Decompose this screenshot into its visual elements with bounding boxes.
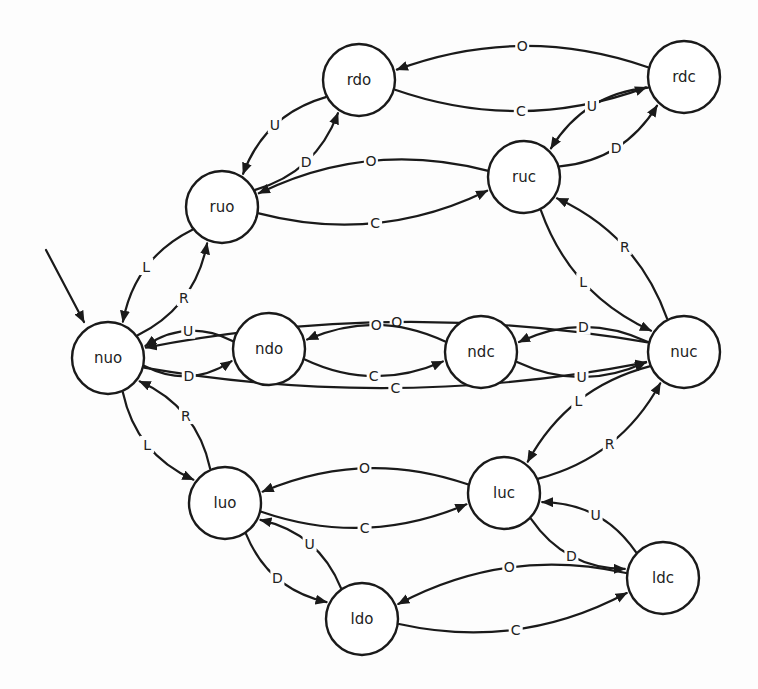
state-node-ldc: ldc xyxy=(627,542,699,614)
edge-label-luc-luo: O xyxy=(359,460,370,476)
edge-label-ldo-ldc: C xyxy=(511,622,521,638)
state-label: ndc xyxy=(467,343,494,361)
edge-label-luo-nuo: R xyxy=(181,408,191,424)
state-node-luo: luo xyxy=(189,467,261,539)
edge-label-ruc-rdc: D xyxy=(611,140,622,156)
state-node-ruc: ruc xyxy=(488,141,560,213)
state-label: ldo xyxy=(351,610,374,628)
state-label: rdo xyxy=(347,71,372,89)
edge-label-luo-ldo: D xyxy=(272,570,283,586)
state-node-nuo: nuo xyxy=(72,322,144,394)
edge-label-ndc-nuc: U xyxy=(576,369,586,385)
edge-label-nuc-ruc: R xyxy=(620,239,630,255)
state-label: ldc xyxy=(652,569,674,587)
state-node-ruo: ruo xyxy=(186,171,258,243)
state-node-rdc: rdc xyxy=(648,41,720,113)
edge-nuc-ruc xyxy=(557,198,667,318)
edge-ruc-rdc xyxy=(560,106,657,167)
state-node-rdo: rdo xyxy=(323,44,395,116)
edge-label-nuo-luo: L xyxy=(143,437,151,453)
state-label: ruc xyxy=(512,168,536,186)
edge-label-nuc-luc: L xyxy=(574,393,582,409)
edge-rdo-ruo xyxy=(243,97,326,174)
edge-nuo-ruo xyxy=(138,243,207,335)
edge-label-luc-nuc: R xyxy=(605,436,615,452)
edge-label-ruc-ruo: O xyxy=(365,153,376,169)
state-label: nuc xyxy=(670,343,697,361)
edge-label-ldc-luc: U xyxy=(590,507,600,523)
edge-ruo-nuo xyxy=(123,230,192,322)
edge-label-ndo-nuo: U xyxy=(183,323,193,339)
edge-label-ruo-rdo: D xyxy=(301,154,312,170)
edge-label-nuo-ruo: R xyxy=(179,290,189,306)
state-diagram: CODUUDCOLRLRCODUCOUDLRLRCODUDUCO rdordcr… xyxy=(0,0,758,689)
edge-luo-nuo xyxy=(140,381,211,468)
edge-label-luo-luc: C xyxy=(360,520,370,536)
state-node-nuc: nuc xyxy=(648,316,720,388)
edge-label-rdc-rdo: O xyxy=(517,38,528,54)
state-label: ndo xyxy=(255,340,283,358)
edge-nuc-luc xyxy=(528,366,650,461)
edge-label-ndo-ndc: C xyxy=(369,368,379,384)
edge-label-ruo-ruc: C xyxy=(370,215,380,231)
edge-luc-nuc xyxy=(539,383,661,478)
edge-label-nuc-ndc: D xyxy=(578,319,589,335)
state-node-ndo: ndo xyxy=(233,313,305,385)
edge-label-ndc-ndo: O xyxy=(371,317,382,333)
edge-rdc-ruc xyxy=(551,88,648,149)
edge-label-ruc-nuc: L xyxy=(579,274,587,290)
edge-label-ldo-luo: U xyxy=(304,536,314,552)
state-label: rdc xyxy=(672,68,696,86)
state-node-luc: luc xyxy=(468,457,540,529)
state-label: nuo xyxy=(94,349,122,367)
edge-ruc-nuc xyxy=(541,210,651,330)
edge-label-rdo-ruo: U xyxy=(270,117,280,133)
edge-label-rdo-rdc: C xyxy=(516,103,526,119)
state-label: luo xyxy=(214,494,237,512)
edge-nuo-luo xyxy=(123,392,194,479)
state-node-ndc: ndc xyxy=(445,316,517,388)
state-label: ruo xyxy=(210,198,235,216)
edge-label-ldc-ldo: O xyxy=(504,559,515,575)
edge-label-ruo-nuo: L xyxy=(142,259,150,275)
edge-label-nuo-nuc: C xyxy=(390,380,400,396)
edge-label-luc-ldc: D xyxy=(566,548,577,564)
edge-label-rdc-ruc: U xyxy=(587,98,597,114)
start-arrow xyxy=(46,250,84,322)
state-node-ldo: ldo xyxy=(326,583,398,655)
state-label: luc xyxy=(493,484,515,502)
edge-label-nuo-ndo: D xyxy=(183,368,194,384)
